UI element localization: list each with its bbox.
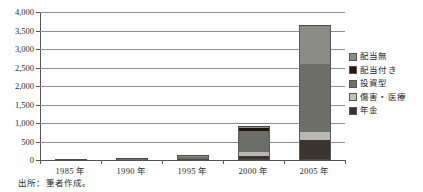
legend-item[interactable]: 年金 bbox=[349, 104, 406, 117]
bar-top-cap bbox=[177, 155, 209, 156]
legend-swatch-icon bbox=[349, 93, 357, 101]
legend-item[interactable]: 配当付き bbox=[349, 64, 406, 77]
figure-root: 05001,0001,5002,0002,5003,0003,5004,000 … bbox=[0, 0, 423, 192]
x-tick-mark bbox=[40, 160, 41, 164]
legend-item[interactable]: 配当無 bbox=[349, 50, 406, 63]
plot-area bbox=[40, 12, 345, 160]
source-note: 出所：筆者作成。 bbox=[18, 178, 92, 188]
bar-segment[interactable] bbox=[238, 152, 270, 156]
y-axis-label: 2,000 bbox=[0, 82, 34, 91]
legend-label: 配当無 bbox=[360, 52, 388, 61]
legend-item[interactable]: 傷害・医療 bbox=[349, 91, 406, 104]
x-tick-mark bbox=[223, 160, 224, 164]
legend-label: 傷害・医療 bbox=[360, 93, 406, 102]
legend-swatch-icon bbox=[349, 53, 357, 61]
bar-segment[interactable] bbox=[238, 127, 270, 128]
y-axis-label: 500 bbox=[0, 138, 34, 147]
y-axis-label: 3,000 bbox=[0, 45, 34, 54]
x-axis-label: 2000 年 bbox=[223, 166, 284, 176]
y-axis-label: 3,500 bbox=[0, 27, 34, 36]
legend-label: 配当付き bbox=[360, 66, 397, 75]
legend-swatch-icon bbox=[349, 80, 357, 88]
y-axis-label: 1,500 bbox=[0, 101, 34, 110]
bar-group bbox=[55, 12, 87, 160]
bar-segment[interactable] bbox=[299, 26, 331, 64]
bar-top-cap bbox=[299, 25, 331, 26]
bar-top-cap bbox=[116, 158, 148, 159]
x-tick-mark bbox=[101, 160, 102, 164]
bar-segment[interactable] bbox=[299, 140, 331, 160]
legend-swatch-icon bbox=[349, 107, 357, 115]
x-axis-label: 1995 年 bbox=[162, 166, 223, 176]
stacked-bar[interactable] bbox=[116, 12, 148, 160]
bar-group bbox=[177, 12, 209, 160]
bar-top-cap bbox=[238, 126, 270, 127]
legend-label: 投資型 bbox=[360, 79, 388, 88]
chart-legend: 配当無配当付き投資型傷害・医療年金 bbox=[349, 50, 406, 118]
bar-segment[interactable] bbox=[299, 64, 331, 132]
bar-segment[interactable] bbox=[177, 157, 209, 158]
legend-item[interactable]: 投資型 bbox=[349, 77, 406, 90]
bar-top-cap bbox=[55, 159, 87, 160]
y-axis-label: 2,500 bbox=[0, 64, 34, 73]
x-tick-mark bbox=[284, 160, 285, 164]
y-axis-label: 4,000 bbox=[0, 8, 34, 17]
x-axis-label: 2005 年 bbox=[284, 166, 345, 176]
bar-segment[interactable] bbox=[299, 132, 331, 139]
bar-segment[interactable] bbox=[238, 131, 270, 152]
x-axis-label: 1990 年 bbox=[101, 166, 162, 176]
x-tick-mark bbox=[162, 160, 163, 164]
stacked-bar[interactable] bbox=[238, 12, 270, 160]
bar-group bbox=[299, 12, 331, 160]
x-tick-mark bbox=[345, 160, 346, 164]
bar-segment[interactable] bbox=[238, 156, 270, 160]
y-axis-label: 0 bbox=[0, 156, 34, 165]
legend-label: 年金 bbox=[360, 106, 378, 115]
stacked-bar[interactable] bbox=[177, 12, 209, 160]
stacked-bar[interactable] bbox=[299, 12, 331, 160]
x-axis-label: 1985 年 bbox=[40, 166, 101, 176]
bar-group bbox=[116, 12, 148, 160]
legend-swatch-icon bbox=[349, 66, 357, 74]
gridline bbox=[40, 160, 345, 161]
y-axis-label: 1,000 bbox=[0, 119, 34, 128]
bar-segment[interactable] bbox=[238, 128, 270, 131]
stacked-bar[interactable] bbox=[55, 12, 87, 160]
bar-group bbox=[238, 12, 270, 160]
